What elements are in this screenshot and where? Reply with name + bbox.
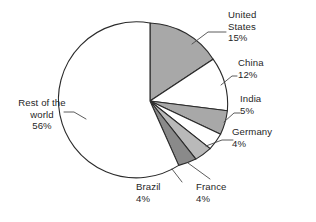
- pie-label-united-states-line1: United: [228, 9, 304, 21]
- pie-chart: United States 15% China 12% India 5% Ger…: [0, 0, 316, 222]
- pie-label-united-states: United States 15%: [228, 9, 304, 44]
- pie-value-china: 12%: [238, 69, 304, 81]
- leader-line-france: [188, 163, 210, 179]
- pie-label-india-line1: India: [240, 93, 304, 105]
- pie-label-china-line1: China: [238, 57, 304, 69]
- pie-label-brazil-line1: Brazil: [136, 181, 190, 193]
- pie-label-germany-line1: Germany: [232, 126, 306, 138]
- pie-label-germany: Germany 4%: [232, 126, 306, 149]
- pie-value-rest-of-the-world: 56%: [2, 120, 82, 132]
- pie-label-united-states-line2: States: [228, 21, 304, 33]
- pie-label-china: China 12%: [238, 57, 304, 80]
- pie-value-brazil: 4%: [136, 193, 190, 205]
- pie-label-france-line1: France: [196, 181, 252, 193]
- pie-value-germany: 4%: [232, 138, 306, 150]
- pie-value-india: 5%: [240, 105, 304, 117]
- pie-label-france: France 4%: [196, 181, 252, 204]
- pie-label-india: India 5%: [240, 93, 304, 116]
- pie-label-rest-of-the-world: Rest of the world 56%: [2, 97, 82, 132]
- pie-label-rest-of-the-world-line1: Rest of the: [2, 97, 82, 109]
- pie-value-france: 4%: [196, 193, 252, 205]
- pie-label-brazil: Brazil 4%: [136, 181, 190, 204]
- pie-label-rest-of-the-world-line2: world: [2, 109, 82, 121]
- pie-value-united-states: 15%: [228, 32, 304, 44]
